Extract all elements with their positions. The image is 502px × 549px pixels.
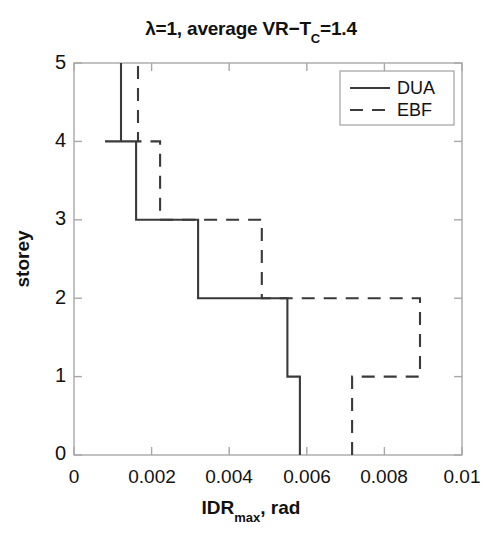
series-dua-line xyxy=(105,63,300,455)
y-axis-label: storey xyxy=(12,214,34,304)
legend-label-ebf: EBF xyxy=(397,100,432,121)
x-axis-label: IDRmax, rad xyxy=(0,497,502,522)
x-tick-label-0004: 0.004 xyxy=(184,466,274,488)
y-tick-label-1: 1 xyxy=(26,364,66,387)
x-tick-label-001: 0.01 xyxy=(427,466,497,488)
x-axis-label-subscript: max xyxy=(234,510,260,525)
y-tick-label-5: 5 xyxy=(26,51,66,74)
x-tick-label-0008: 0.008 xyxy=(339,466,429,488)
x-tick-label-0: 0 xyxy=(54,466,94,488)
y-tick-label-0: 0 xyxy=(26,442,66,465)
y-tick-label-4: 4 xyxy=(26,129,66,152)
legend-label-dua: DUA xyxy=(397,78,435,99)
x-axis-label-suffix: , rad xyxy=(260,497,300,518)
chart-figure: λ=1, average VR−TC=1.4 xyxy=(0,0,502,549)
x-axis-label-prefix: IDR xyxy=(202,497,235,518)
